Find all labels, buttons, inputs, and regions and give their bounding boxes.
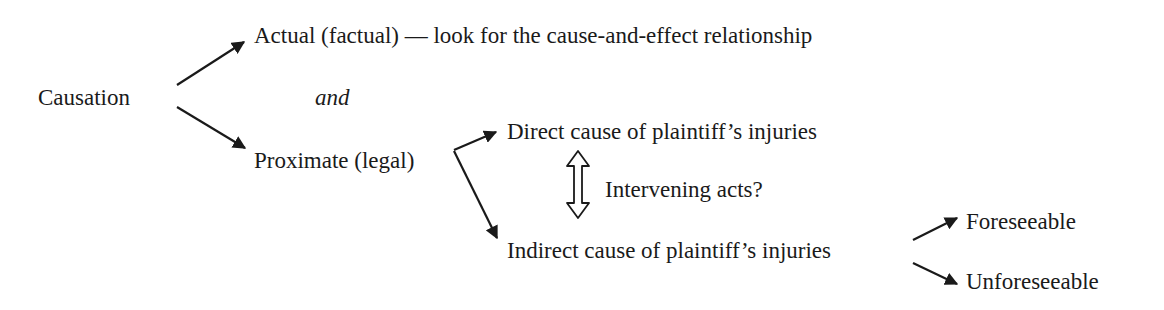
node-causation: Causation	[38, 86, 130, 109]
arrow-indirect-foreseeable	[913, 218, 957, 240]
node-actual: Actual (factual) — look for the cause-an…	[254, 24, 812, 47]
node-unforeseeable: Unforeseeable	[966, 270, 1099, 293]
node-proximate: Proximate (legal)	[254, 149, 414, 172]
double-arrow-icon	[567, 151, 589, 218]
node-foreseeable: Foreseeable	[966, 210, 1076, 233]
arrow-causation-proximate	[177, 107, 245, 148]
connector-and: and	[315, 86, 350, 109]
node-indirect-cause: Indirect cause of plaintiff’s injuries	[507, 239, 831, 262]
label-intervening-acts: Intervening acts?	[605, 178, 763, 201]
arrow-proximate-indirect	[454, 151, 497, 238]
arrow-indirect-unforeseeable	[913, 263, 957, 284]
arrow-causation-actual	[177, 42, 244, 85]
arrow-proximate-direct	[454, 132, 496, 150]
node-direct-cause: Direct cause of plaintiff’s injuries	[507, 120, 817, 143]
